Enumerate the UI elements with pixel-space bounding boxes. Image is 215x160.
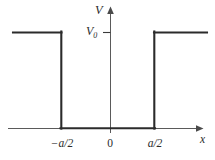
x-tick-label-neg-a-over-2: −a/2 xyxy=(51,138,73,150)
x-tick-label-zero: 0 xyxy=(107,138,113,150)
v-axis-arrow-icon xyxy=(107,7,114,15)
potential-well-plot xyxy=(0,0,215,160)
v0-tick-label-subscript: 0 xyxy=(93,31,97,40)
figure-container: V x V0 −a/2 0 a/2 xyxy=(0,0,215,160)
x-axis-arrow-icon xyxy=(196,125,204,132)
x-axis-label: x xyxy=(200,134,205,146)
v-axis-label: V xyxy=(95,4,103,17)
x-tick-label-a-over-2: a/2 xyxy=(148,138,163,150)
v0-tick-label: V0 xyxy=(86,25,97,40)
